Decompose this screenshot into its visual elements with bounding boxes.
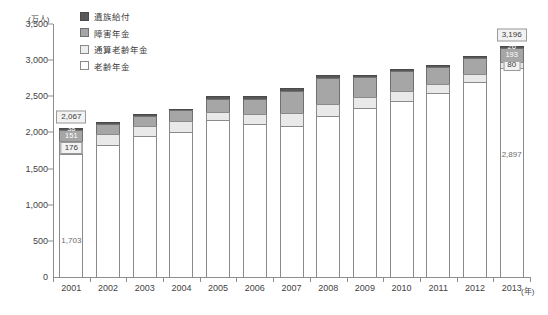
bar-segment [463,56,487,58]
bar-segment [463,58,487,74]
segment-value-label: 1,703 [59,236,83,246]
bar-2004[interactable] [169,109,193,277]
y-axis-tick-label: 500 [4,236,48,246]
bar-segment [353,75,377,78]
bar-segment [133,136,157,277]
bar-segment [316,104,340,116]
legend-swatch-icon [80,61,89,70]
bar-total-callout: 2,067 [56,110,86,123]
bar-segment [353,77,377,97]
bar-segment [426,93,450,277]
bar-2013[interactable]: 2,8978019326 [500,46,524,277]
x-axis-tick-mark [126,277,127,282]
x-axis-line [53,277,530,278]
bar-2010[interactable] [390,69,414,277]
bar-segment [280,126,304,277]
bar-segment [169,109,193,111]
bar-2007[interactable] [280,88,304,277]
bar-segment [133,126,157,137]
bar-segment [206,120,230,277]
bar-segment [353,97,377,108]
bar-segment [96,122,120,124]
y-axis-tick-label: 3,000 [4,55,48,65]
x-axis-tick-mark [347,277,348,282]
bar-segment [390,101,414,277]
bar-2001[interactable]: 1,70317615138 [59,128,83,277]
x-axis-tick-mark [90,277,91,282]
bar-2006[interactable] [243,96,267,277]
bar-segment [426,84,450,93]
bar-segment: 26 [500,46,524,48]
x-axis-tick-mark [493,277,494,282]
legend-swatch-icon [80,12,89,21]
bar-segment [463,82,487,277]
y-axis-tick-label: 3,500 [4,19,48,29]
stacked-bar-chart: (万人) 3,5003,0002,5002,0001,5001,0005000 … [0,0,548,315]
legend-item-label: 通算老齢年金 [94,43,148,55]
x-axis-tick-label: 2009 [355,283,375,293]
bar-2002[interactable] [96,122,120,277]
bar-segment [169,132,193,277]
bar-segment [280,91,304,113]
bar-segment [463,74,487,82]
x-axis-unit-label: (年) [521,285,534,296]
bar-segment [206,99,230,112]
legend-swatch-icon [80,28,89,37]
x-axis-tick-label: 2006 [245,283,265,293]
bar-segment [96,145,120,277]
bar-segment [316,78,340,104]
x-axis-tick-label: 2012 [465,283,485,293]
legend-item[interactable]: 通算老齢年金 [80,43,148,55]
legend-item-label: 遺族給付 [94,10,130,22]
bar-segment [353,108,377,277]
bar-segment [206,96,230,98]
x-axis-tick-label: 2004 [171,283,191,293]
legend-item[interactable]: 遺族給付 [80,10,148,22]
x-axis-tick-mark [53,277,54,282]
y-axis-tick-mark [48,96,53,97]
bar-segment [316,75,340,78]
x-axis-tick-label: 2001 [61,283,81,293]
y-axis-tick-mark [48,60,53,61]
bar-2009[interactable] [353,75,377,277]
x-axis-tick-mark [163,277,164,282]
x-axis-tick-mark [273,277,274,282]
bar-segment: 38 [59,128,83,131]
bar-segment [390,91,414,101]
y-axis-tick-label: 0 [4,272,48,282]
chart-legend: 遺族給付障害年金通算老齢年金老齢年金 [80,10,148,76]
y-axis-ticks: 3,5003,0002,5002,0001,5001,0005000 [0,0,48,315]
x-axis-tick-mark [236,277,237,282]
bar-segment [133,116,157,125]
bar-segment: 2,897 [500,68,524,277]
bar-segment [280,88,304,91]
bar-segment [243,114,267,124]
x-axis-tick-mark [457,277,458,282]
bar-segment [426,67,450,84]
bar-2011[interactable] [426,65,450,277]
bar-segment [316,116,340,277]
x-axis-tick-label: 2007 [281,283,301,293]
x-axis-tick-mark [200,277,201,282]
y-axis-tick-mark [48,24,53,25]
bar-segment [280,113,304,126]
segment-value-label: 2,897 [500,150,524,160]
y-axis-tick-label: 2,000 [4,127,48,137]
y-axis-tick-label: 1,500 [4,164,48,174]
bar-2005[interactable] [206,96,230,277]
x-axis-tick-label: 2013 [502,283,522,293]
legend-item[interactable]: 障害年金 [80,27,148,39]
legend-item-label: 老齢年金 [94,60,130,72]
y-axis-tick-label: 1,000 [4,200,48,210]
bar-2012[interactable] [463,56,487,277]
x-axis-tick-label: 2002 [98,283,118,293]
bar-2008[interactable] [316,75,340,277]
bar-segment [133,114,157,116]
x-axis-tick-label: 2003 [135,283,155,293]
x-axis-tick-label: 2010 [392,283,412,293]
bar-2003[interactable] [133,114,157,277]
x-axis-tick-mark [383,277,384,282]
segment-value-label: 38 [65,125,77,135]
y-axis-tick-label: 2,500 [4,91,48,101]
legend-item[interactable]: 老齢年金 [80,60,148,72]
